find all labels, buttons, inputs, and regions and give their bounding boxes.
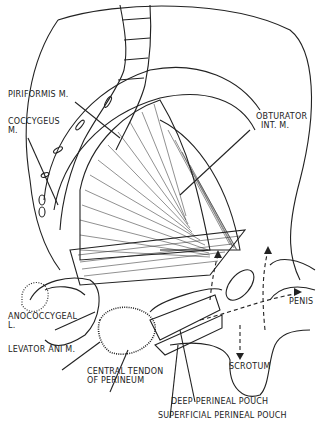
label-superficial-perineal-pouch: SUPERFICIAL PERINEAL POUCH xyxy=(158,411,287,420)
label-levator-ani: LEVATOR ANI M. xyxy=(8,345,75,354)
label-coccygeus: COCCYGEUS xyxy=(8,117,60,126)
label-anococcygeal-line2: L. xyxy=(8,321,15,330)
label-obturator-line2: INT. M. xyxy=(261,121,289,130)
label-anococcygeal: ANOCOCCYGEAL xyxy=(8,312,77,321)
label-deep-perineal-pouch: DEEP PERINEAL POUCH xyxy=(171,397,268,406)
label-central-tendon-line2: OF PERINEUM xyxy=(87,376,144,385)
label-obturator: OBTURATOR xyxy=(256,112,307,121)
pelvic-floor-illustration xyxy=(0,0,319,425)
label-coccygeus-line2: M. xyxy=(8,126,18,135)
label-penis: PENIS xyxy=(289,297,313,306)
label-scrotum: SCROTUM xyxy=(229,362,271,371)
label-piriformis: PIRIFORMIS M. xyxy=(8,90,69,99)
label-central-tendon: CENTRAL TENDON xyxy=(87,367,163,376)
